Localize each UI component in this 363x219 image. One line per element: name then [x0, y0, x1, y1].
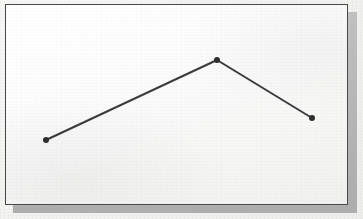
line-chart-plot: [6, 5, 349, 206]
series-line-path: [46, 60, 312, 140]
data-point-marker: [43, 137, 49, 143]
data-point-marker: [309, 115, 315, 121]
chart-frame: [5, 4, 348, 205]
figure-root: [0, 0, 363, 219]
series-marker-group: [43, 57, 315, 143]
data-point-marker: [214, 57, 220, 63]
